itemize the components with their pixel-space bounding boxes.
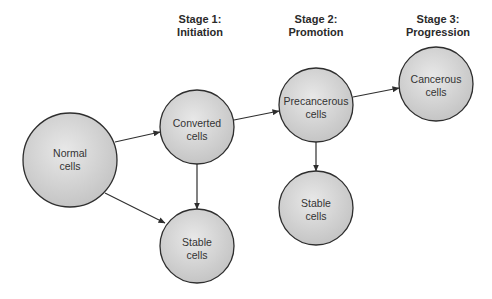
label-line1: Stable (271, 197, 361, 210)
stage-1-heading: Stage 1: Initiation (150, 13, 250, 39)
arrow-normal-to-stable1 (105, 193, 165, 223)
label-line2: cells (271, 108, 361, 121)
label-line1: Stable (152, 236, 242, 249)
stage-1-number: Stage 1: (150, 13, 250, 26)
stage-2-number: Stage 2: (266, 13, 366, 26)
label-line2: cells (152, 249, 242, 262)
label-line1: Normal (25, 147, 115, 160)
label-precancerous-cells: Precancerous cells (271, 95, 361, 121)
label-stable-cells-stage2: Stable cells (271, 197, 361, 223)
stage-2-title: Promotion (266, 26, 366, 39)
label-normal-cells: Normal cells (25, 147, 115, 173)
label-line2: cells (25, 160, 115, 173)
label-stable-cells-stage1: Stable cells (152, 236, 242, 262)
label-line1: Precancerous (271, 95, 361, 108)
label-line2: cells (271, 210, 361, 223)
stage-3-number: Stage 3: (388, 13, 488, 26)
label-line1: Converted (152, 117, 242, 130)
stage-1-title: Initiation (150, 26, 250, 39)
label-line2: cells (391, 86, 481, 99)
stage-3-title: Progression (388, 26, 488, 39)
label-converted-cells: Converted cells (152, 117, 242, 143)
label-cancerous-cells: Cancerous cells (391, 73, 481, 99)
label-line1: Cancerous (391, 73, 481, 86)
label-line2: cells (152, 130, 242, 143)
stage-2-heading: Stage 2: Promotion (266, 13, 366, 39)
stage-3-heading: Stage 3: Progression (388, 13, 488, 39)
